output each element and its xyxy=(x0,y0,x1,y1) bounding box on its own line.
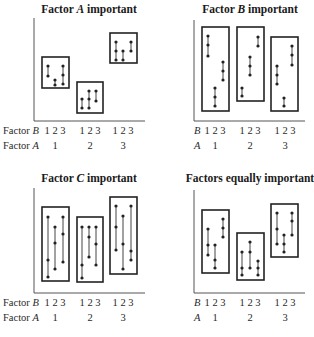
factor-importance-figure: Factor A importantFactor BFactor A1 2 31… xyxy=(0,0,314,337)
data-point xyxy=(248,250,251,253)
group-box-a1 xyxy=(202,27,229,111)
b-tick-labels: 1 2 3 xyxy=(275,125,296,136)
b-tick-labels: 1 2 3 xyxy=(113,125,134,136)
row-label-factor-a: A xyxy=(193,140,201,151)
row-label-factor-a: A xyxy=(193,312,201,323)
a-tick-label: 2 xyxy=(247,312,252,323)
row-label-factor-b: Factor B xyxy=(3,297,39,308)
data-point xyxy=(94,242,97,245)
data-point xyxy=(275,227,278,230)
data-point xyxy=(121,267,124,270)
a-tick-label: 1 xyxy=(52,312,57,323)
a-tick-label: 1 xyxy=(212,140,217,151)
data-point xyxy=(94,89,97,92)
data-point xyxy=(290,63,293,66)
row-label-factor-b: B xyxy=(194,297,201,308)
group-box-a3 xyxy=(271,204,298,257)
data-point xyxy=(114,49,117,52)
data-point xyxy=(206,243,209,246)
data-point xyxy=(87,255,90,258)
data-point xyxy=(61,232,64,235)
data-point xyxy=(53,83,56,86)
b-tick-labels: 1 2 3 xyxy=(205,125,226,136)
data-point xyxy=(206,227,209,230)
row-label-factor-a: Factor A xyxy=(3,140,39,151)
data-point xyxy=(213,104,216,107)
data-point xyxy=(213,266,216,269)
group-box-a2 xyxy=(237,233,264,280)
group-box-a3 xyxy=(271,37,298,111)
data-point xyxy=(114,204,117,207)
panel-title: Factors equally important xyxy=(186,172,314,185)
b-tick-labels: 1 2 3 xyxy=(45,125,66,136)
data-point xyxy=(221,69,224,72)
data-point xyxy=(248,240,251,243)
data-point xyxy=(87,89,90,92)
data-point xyxy=(282,242,285,245)
data-point xyxy=(290,233,293,236)
data-point xyxy=(256,273,259,276)
b-tick-labels: 1 2 3 xyxy=(275,297,296,308)
data-point xyxy=(61,260,64,263)
data-point xyxy=(121,214,124,217)
data-point xyxy=(114,58,117,61)
row-label-factor-a: Factor A xyxy=(3,312,39,323)
row-label-factor-b: Factor B xyxy=(3,125,39,136)
data-point xyxy=(213,258,216,261)
data-point xyxy=(129,258,132,261)
data-point xyxy=(256,35,259,38)
group-box-a2 xyxy=(237,27,264,101)
data-point xyxy=(256,44,259,47)
a-tick-label: 1 xyxy=(212,312,217,323)
data-point xyxy=(248,266,251,269)
data-point xyxy=(221,60,224,63)
data-point xyxy=(290,53,293,56)
data-point xyxy=(46,258,49,261)
data-point xyxy=(46,64,49,67)
b-tick-labels: 1 2 3 xyxy=(113,297,134,308)
data-point xyxy=(275,82,278,85)
data-point xyxy=(121,242,124,245)
panel-factor-c: Factor C importantFactor BFactor A1 2 31… xyxy=(3,172,145,323)
data-point xyxy=(282,250,285,253)
data-point xyxy=(94,263,97,266)
row-label-factor-b: B xyxy=(194,125,201,136)
data-point xyxy=(248,64,251,67)
data-point xyxy=(80,106,83,109)
panel-title: Factor A important xyxy=(41,3,137,16)
b-tick-labels: 1 2 3 xyxy=(80,125,101,136)
data-point xyxy=(206,34,209,37)
a-tick-label: 3 xyxy=(282,312,287,323)
a-tick-label: 2 xyxy=(87,312,92,323)
data-point xyxy=(282,233,285,236)
data-point xyxy=(206,43,209,46)
data-point xyxy=(129,204,132,207)
b-tick-labels: 1 2 3 xyxy=(45,297,66,308)
a-tick-label: 3 xyxy=(120,312,125,323)
panel-factor-a: Factor A importantFactor BFactor A1 2 31… xyxy=(3,3,145,151)
a-tick-label: 3 xyxy=(120,140,125,151)
group-box-a2 xyxy=(77,82,103,113)
data-point xyxy=(206,253,209,256)
data-point xyxy=(46,275,49,278)
data-point xyxy=(80,97,83,100)
group-box-a1 xyxy=(42,207,69,281)
data-point xyxy=(80,225,83,228)
data-point xyxy=(213,95,216,98)
group-box-a3 xyxy=(110,33,137,63)
data-point xyxy=(256,259,259,262)
data-point xyxy=(121,49,124,52)
data-point xyxy=(61,215,64,218)
b-tick-labels: 1 2 3 xyxy=(80,297,101,308)
data-point xyxy=(221,235,224,238)
data-point xyxy=(129,40,132,43)
data-point xyxy=(240,273,243,276)
group-box-a2 xyxy=(77,217,103,282)
data-point xyxy=(87,235,90,238)
data-point xyxy=(221,78,224,81)
data-point xyxy=(248,55,251,58)
data-point xyxy=(290,44,293,47)
a-tick-label: 3 xyxy=(282,140,287,151)
data-point xyxy=(240,86,243,89)
data-point xyxy=(61,82,64,85)
